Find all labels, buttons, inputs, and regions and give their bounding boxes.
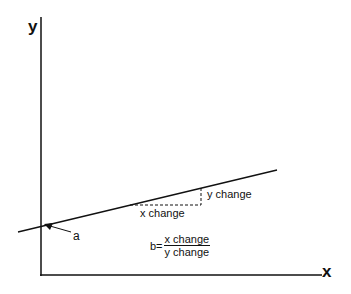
formula-numerator: x change bbox=[164, 233, 211, 246]
x-change-label: x change bbox=[140, 207, 185, 219]
formula-fraction: x change y change bbox=[164, 233, 211, 258]
formula-denominator: y change bbox=[164, 246, 211, 258]
y-change-label: y change bbox=[207, 188, 252, 200]
regression-line bbox=[18, 170, 277, 232]
intercept-arrow-shaft bbox=[50, 226, 71, 232]
y-axis-label: y bbox=[28, 17, 37, 37]
intercept-label: a bbox=[73, 229, 80, 243]
formula-lhs: b= bbox=[150, 240, 163, 252]
slope-formula: b= x change y change bbox=[150, 233, 210, 258]
x-axis-label: x bbox=[322, 262, 331, 282]
